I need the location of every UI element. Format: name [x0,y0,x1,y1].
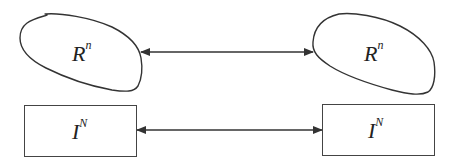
bottom-left-label: IN [72,121,87,143]
top-left-label-sup: n [85,38,91,52]
top-right-label-sup: n [377,38,383,52]
top-right-label-base: R [364,41,377,66]
top-left-label: Rn [72,43,91,65]
top-right-label: Rn [364,43,383,65]
bottom-right-label: IN [368,120,383,142]
top-left-label-base: R [72,41,85,66]
bottom-right-label-sup: N [375,115,383,129]
bottom-left-label-sup: N [79,116,87,130]
diagram-canvas: Rn Rn IN IN [0,0,459,167]
